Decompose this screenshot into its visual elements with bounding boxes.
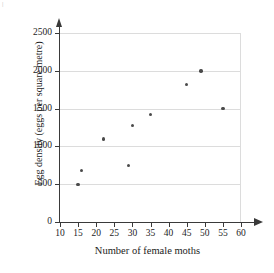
scatter-plot-figure: | 05001000150020002500 10152025303540455… — [0, 0, 274, 273]
y-axis-line — [59, 26, 60, 223]
data-point — [185, 83, 188, 86]
plot-area — [60, 33, 241, 222]
plot-top-border — [60, 33, 241, 34]
y-axis-arrow-icon — [56, 18, 62, 27]
data-point — [127, 164, 130, 167]
x-tick-mark-55 — [223, 223, 224, 227]
gridline-y-2000 — [60, 71, 241, 72]
x-axis-line — [59, 222, 255, 223]
data-point — [149, 113, 152, 116]
x-tick-label-60: 60 — [229, 229, 253, 239]
x-tick-mark-50 — [205, 223, 206, 227]
gridline-y-1000 — [60, 146, 241, 147]
x-tick-mark-15 — [78, 223, 79, 227]
data-point — [76, 183, 79, 186]
y-tick-label-0: 0 — [12, 217, 52, 227]
plot-right-border — [240, 33, 241, 222]
y-axis-title: Egg density (eggs per square metre) — [33, 14, 44, 214]
x-tick-mark-45 — [187, 223, 188, 227]
gridline-y-500 — [60, 184, 241, 185]
y-tick-mark-500 — [55, 184, 60, 185]
x-tick-mark-30 — [132, 223, 133, 227]
y-tick-mark-1500 — [55, 109, 60, 110]
x-tick-mark-35 — [151, 223, 152, 227]
page-edge-artifact: | — [2, 1, 3, 8]
gridline-y-1500 — [60, 109, 241, 110]
x-tick-mark-10 — [60, 223, 61, 227]
y-tick-mark-2500 — [55, 33, 60, 34]
data-point — [131, 124, 134, 127]
x-tick-mark-40 — [169, 223, 170, 227]
data-point — [199, 69, 202, 72]
data-point — [221, 107, 224, 110]
x-tick-mark-25 — [114, 223, 115, 227]
x-axis-arrow-icon — [254, 218, 263, 226]
x-tick-mark-60 — [241, 223, 242, 227]
y-tick-mark-1000 — [55, 146, 60, 147]
data-point — [102, 137, 105, 140]
data-point — [80, 169, 83, 172]
x-axis-title: Number of female moths — [40, 245, 255, 256]
x-tick-mark-20 — [96, 223, 97, 227]
y-tick-mark-2000 — [55, 71, 60, 72]
